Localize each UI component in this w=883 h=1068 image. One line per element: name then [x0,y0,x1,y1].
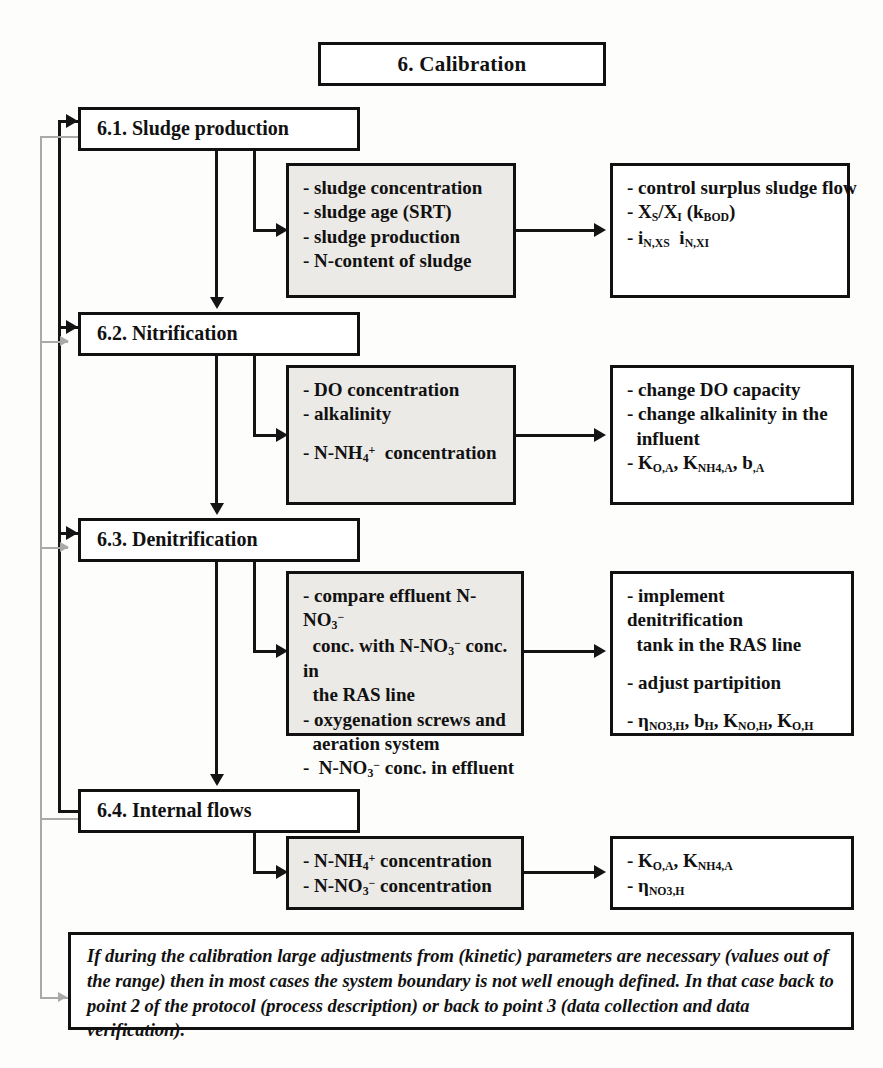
detail-box-6-1-middle: - sludge concentration - sludge age (SRT… [286,163,516,298]
list-item: - implement denitrification tank in the … [627,584,839,657]
list-item: - sludge concentration [303,176,501,200]
arrow-down-6-2 [210,297,224,309]
detail-box-6-4-right: - KO,A, KNH4,A - ηNO3,H [610,836,854,910]
feedback-gray-into-6-1 [40,136,78,138]
arrow-right-6-1-right [594,223,606,237]
connector-6-2-branch-v [253,356,256,434]
list-item: - sludge age (SRT) [303,200,501,224]
list-item: - N-NO3− concentration [303,874,509,899]
arrow-feedback-6-2 [66,320,78,334]
connector-6-4-branch-v [253,833,256,873]
arrow-feedback-6-1 [66,114,78,128]
list-item: - N-NO3− conc. in effluent [303,756,509,781]
detail-box-6-2-right: - change DO capacity - change alkalinity… [610,365,854,505]
arrow-gray-6-3 [60,542,69,552]
arrow-right-6-3-right [594,644,606,658]
section-box-6-2[interactable]: 6.2. Nitrification [78,312,360,356]
spacer [627,695,839,709]
list-item: - change alkalinity in the influent [627,402,839,451]
section-heading-6-2: 6.2. Nitrification [97,321,238,347]
arrow-right-6-4-middle [276,865,288,879]
list-item: - compare effluent N-NO3− conc. with N-N… [303,584,509,708]
arrow-right-6-1-middle [276,223,288,237]
title-text: 6. Calibration [397,51,526,78]
list-item: - oxygenation screws and aeration system [303,708,509,757]
detail-box-6-2-middle: - DO concentration - alkalinity - N-NH4+… [286,365,516,505]
list-item: - KO,A, KNH4,A, b,A [627,451,839,476]
feedback-dark-spine [58,120,61,813]
list-item: - alkalinity [303,402,501,426]
list-item: - adjust partipition [627,671,839,695]
section-heading-6-1: 6.1. Sludge production [97,116,289,142]
connector-6-3-branch-v [253,562,256,650]
list-item: - KO,A, KNH4,A [627,849,839,874]
section-box-6-4[interactable]: 6.4. Internal flows [78,789,360,833]
detail-box-6-3-right: - implement denitrification tank in the … [610,571,854,736]
arrow-feedback-6-3 [66,526,78,540]
arrow-right-6-2-middle [276,428,288,442]
arrow-right-6-3-middle [276,644,288,658]
arrow-down-6-4 [210,774,224,786]
arrow-right-6-4-right [594,865,606,879]
diagram-canvas: 6. Calibration 6.1. Sludge production - … [0,0,883,1068]
arrow-gray-6-2 [60,336,69,346]
detail-box-6-1-right: - control surplus sludge flow - XS/XI (k… [610,163,850,298]
list-item: - ηNO3,H [627,874,839,899]
title-box: 6. Calibration [318,42,606,86]
list-item: - N-NH4+ concentration [303,441,501,466]
note-box: If during the calibration large adjustme… [68,932,854,1030]
detail-box-6-4-middle: - N-NH4+ concentration - N-NO3− concentr… [286,836,524,910]
list-item: - N-NH4+ concentration [303,849,509,874]
spacer [627,657,839,671]
list-item: - N-content of sludge [303,249,501,273]
list-item: - ηNO3,H, bH, KNO,H, KO,H [627,709,839,734]
detail-box-6-3-middle: - compare effluent N-NO3− conc. with N-N… [286,571,524,736]
connector-6-3-to-6-4 [215,562,218,774]
section-box-6-1[interactable]: 6.1. Sludge production [78,107,360,151]
arrow-right-6-2-right [594,428,606,442]
connector-6-2-to-6-3 [215,356,218,503]
feedback-gray-into-6-4 [40,818,78,820]
note-text: If during the calibration large adjustme… [87,946,834,1040]
section-box-6-3[interactable]: 6.3. Denitrification [78,518,360,562]
list-item: - change DO capacity [627,378,839,402]
connector-6-3-mid-to-right [524,650,596,653]
list-item: - control surplus sludge flow [627,176,835,200]
list-item: - DO concentration [303,378,501,402]
arrow-down-6-3 [210,503,224,515]
list-item: - XS/XI (kBOD) [627,200,835,225]
list-item: - sludge production [303,225,501,249]
connector-6-1-branch-v [253,151,256,229]
section-heading-6-4: 6.4. Internal flows [97,798,251,824]
list-item: - iN,XS iN,XI [627,226,835,251]
section-heading-6-3: 6.3. Denitrification [97,527,258,553]
connector-6-4-mid-to-right [524,871,596,874]
feedback-gray-spine [40,136,42,998]
arrow-gray-into-note [58,992,67,1002]
feedback-dark-from-6-4 [58,810,80,813]
connector-6-1-mid-to-right [516,229,596,232]
connector-6-1-to-6-2 [215,151,218,297]
spacer [303,427,501,441]
connector-6-2-mid-to-right [516,434,596,437]
